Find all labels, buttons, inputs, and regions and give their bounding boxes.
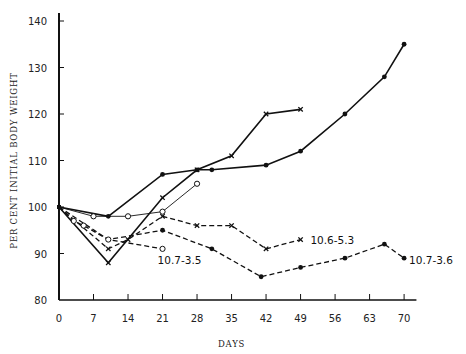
dot-marker-icon (264, 163, 269, 168)
x-tick-label: 35 (225, 313, 238, 324)
dot-marker-icon (382, 74, 387, 79)
x-tick-label: 63 (363, 313, 376, 324)
x-axis-title: DAYS (218, 339, 245, 349)
open-circle-marker-icon (81, 223, 86, 228)
dot-marker-icon (160, 228, 165, 233)
open-circle-marker-icon (71, 218, 76, 223)
y-tick-label: 140 (28, 16, 47, 27)
series-line-solid-dot (59, 44, 404, 216)
dot-marker-icon (298, 149, 303, 154)
dot-marker-icon (402, 42, 407, 47)
y-tick-label: 80 (34, 295, 47, 306)
dot-marker-icon (402, 256, 407, 261)
open-circle-marker-icon (125, 214, 130, 219)
open-circle-marker-icon (91, 214, 96, 219)
series-annotation: 10.7-3.6 (409, 254, 453, 266)
series-line-solid-x (59, 109, 301, 262)
dot-marker-icon (343, 112, 348, 117)
x-tick-label: 7 (90, 313, 96, 324)
x-marker-icon (106, 247, 110, 251)
series-annotation: 10.6-5.3 (310, 234, 354, 246)
open-circle-marker-icon (160, 246, 165, 251)
x-marker-icon (106, 261, 110, 265)
x-tick-label: 70 (398, 313, 411, 324)
x-marker-icon (160, 196, 164, 200)
x-tick-label: 14 (122, 313, 135, 324)
dot-marker-icon (160, 172, 165, 177)
open-circle-marker-icon (160, 209, 165, 214)
dot-marker-icon (298, 265, 303, 270)
series-line-10.7-3.5 (59, 207, 163, 249)
labels-group: 10.6-5.310.7-3.510.7-3.6 (158, 234, 454, 267)
dot-marker-icon (343, 256, 348, 261)
dot-marker-icon (259, 274, 264, 279)
x-tick-label: 56 (329, 313, 342, 324)
dot-marker-icon (209, 246, 214, 251)
series-annotation: 10.7-3.5 (158, 254, 202, 266)
x-tick-label: 42 (260, 313, 273, 324)
axes: 809010011012013014007142128354249566370D… (9, 13, 416, 349)
y-axis-title: PER CENT INITIAL BODY WEIGHT (9, 72, 19, 248)
y-tick-label: 90 (34, 249, 47, 260)
y-tick-label: 110 (28, 156, 47, 167)
x-tick-label: 28 (191, 313, 204, 324)
origin-marker-icon (57, 205, 61, 209)
y-tick-label: 120 (28, 109, 47, 120)
x-tick-label: 0 (56, 313, 62, 324)
y-tick-label: 130 (28, 63, 47, 74)
open-circle-marker-icon (194, 181, 199, 186)
x-tick-label: 21 (156, 313, 169, 324)
open-circle-marker-icon (106, 237, 111, 242)
y-tick-label: 100 (28, 202, 47, 213)
dot-marker-icon (209, 167, 214, 172)
body-weight-chart: 809010011012013014007142128354249566370D… (0, 0, 466, 354)
dot-marker-icon (382, 242, 387, 247)
x-tick-label: 49 (294, 313, 307, 324)
